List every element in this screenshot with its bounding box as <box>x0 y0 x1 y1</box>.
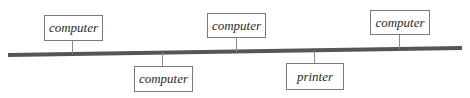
node-computer: computer <box>371 11 430 49</box>
node-computer: computer <box>135 53 193 92</box>
node-label: computer <box>212 18 262 33</box>
bus-network-diagram: computercomputercomputerprintercomputer <box>0 0 470 98</box>
node-label: computer <box>49 20 99 35</box>
diagram-svg: computercomputercomputerprintercomputer <box>0 0 470 98</box>
node-label: computer <box>139 71 189 86</box>
node-label: printer <box>296 69 334 84</box>
node-printer: printer <box>287 50 344 89</box>
node-label: computer <box>375 15 425 30</box>
node-computer: computer <box>208 14 266 52</box>
node-computer: computer <box>45 16 103 55</box>
bus-line <box>8 48 462 55</box>
